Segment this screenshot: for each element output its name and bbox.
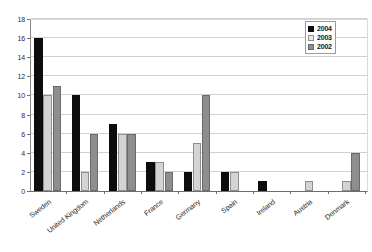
bar — [155, 162, 164, 191]
bar — [184, 172, 193, 191]
bar — [146, 162, 155, 191]
legend-label: 2003 — [317, 34, 332, 41]
bar-group — [184, 19, 211, 191]
bar-group — [258, 19, 285, 191]
bar — [193, 143, 202, 191]
bar — [258, 181, 267, 191]
y-tick-mark — [27, 115, 30, 116]
bar — [127, 134, 136, 191]
y-tick-mark — [27, 134, 30, 135]
bar — [81, 172, 90, 191]
bar-group — [221, 19, 248, 191]
y-axis: 024681012141618 — [0, 19, 30, 192]
y-tick-mark — [27, 172, 30, 173]
y-tick-label: 6 — [21, 130, 25, 137]
y-tick-mark — [27, 38, 30, 39]
y-tick-label: 8 — [21, 111, 25, 118]
legend-label: 2004 — [317, 25, 332, 32]
bar-group — [72, 19, 99, 191]
bar — [165, 172, 174, 191]
y-tick-label: 2 — [21, 168, 25, 175]
bar — [305, 181, 314, 191]
bar — [351, 153, 360, 191]
legend-swatch-icon — [308, 44, 314, 50]
bar-group — [109, 19, 136, 191]
bar-group — [333, 19, 360, 191]
bar — [72, 95, 81, 191]
y-tick-mark — [27, 76, 30, 77]
bar — [90, 134, 99, 191]
bar-group — [34, 19, 61, 191]
chart-legend: 200420032002 — [305, 21, 336, 54]
y-tick-mark — [27, 95, 30, 96]
bar — [118, 134, 127, 191]
bar — [221, 172, 230, 191]
legend-item: 2002 — [308, 42, 332, 51]
bar — [43, 95, 52, 191]
bar-group — [146, 19, 173, 191]
bar-chart: 024681012141618 SwedenUnited KingdomNeth… — [0, 0, 372, 252]
bar — [342, 181, 351, 191]
legend-item: 2003 — [308, 33, 332, 42]
legend-item: 2004 — [308, 24, 332, 33]
x-axis-labels: SwedenUnited KingdomNetherlandsFranceGer… — [0, 192, 372, 252]
y-tick-label: 10 — [18, 92, 25, 99]
y-tick-label: 14 — [18, 54, 25, 61]
y-tick-label: 4 — [21, 149, 25, 156]
bar — [202, 95, 211, 191]
bar — [109, 124, 118, 191]
y-tick-label: 16 — [18, 35, 25, 42]
legend-swatch-icon — [308, 26, 314, 32]
y-tick-mark — [27, 19, 30, 20]
y-tick-label: 12 — [18, 73, 25, 80]
bar — [34, 38, 43, 191]
y-tick-mark — [27, 57, 30, 58]
bar — [53, 86, 62, 191]
legend-label: 2002 — [317, 43, 332, 50]
bar — [230, 172, 239, 191]
legend-swatch-icon — [308, 35, 314, 41]
y-tick-mark — [27, 153, 30, 154]
y-tick-label: 18 — [18, 16, 25, 23]
